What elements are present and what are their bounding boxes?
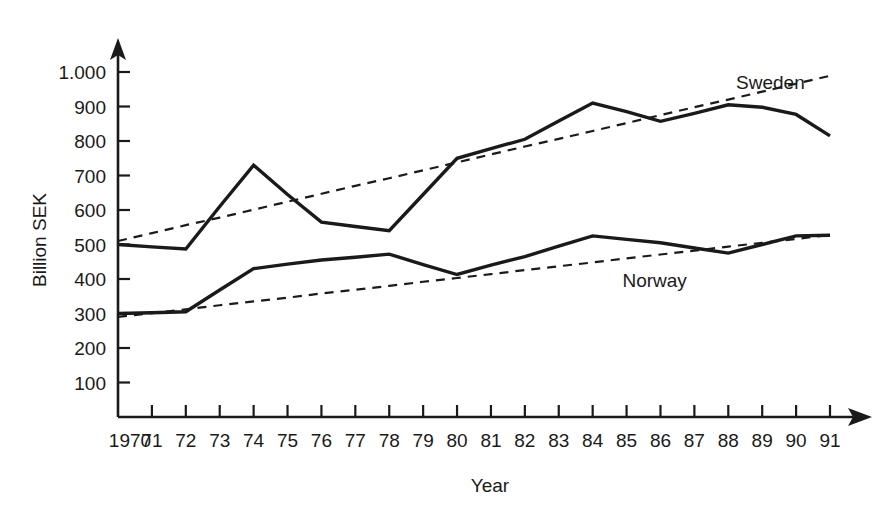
- x-axis-tick-label: 90: [786, 430, 807, 451]
- x-axis-tick-label: 85: [616, 430, 637, 451]
- y-axis-tick-label: 500: [74, 235, 106, 256]
- x-axis-tick-label: 86: [650, 430, 671, 451]
- trend-line-sweden: [118, 76, 830, 241]
- x-axis-tick-label: 73: [209, 430, 230, 451]
- y-axis-tick-label: 1.000: [58, 62, 106, 83]
- x-axis-tick-label: 72: [175, 430, 196, 451]
- x-axis-tick-label: 81: [480, 430, 501, 451]
- x-axis-tick-label: 91: [819, 430, 840, 451]
- data-line-sweden: [118, 103, 830, 249]
- y-axis-tick-label: 800: [74, 131, 106, 152]
- trend-line-norway: [118, 235, 830, 317]
- y-axis-tick-label: 900: [74, 97, 106, 118]
- x-axis-tick-label: 78: [379, 430, 400, 451]
- y-axis-tick-label: 600: [74, 200, 106, 221]
- y-axis-title: Billion SEK: [29, 193, 50, 287]
- x-axis-tick-label: 79: [413, 430, 434, 451]
- x-axis-tick-label: 77: [345, 430, 366, 451]
- x-axis-tick-label: 87: [684, 430, 705, 451]
- x-axis-ticks: [152, 405, 830, 417]
- x-axis-title: Year: [471, 475, 510, 496]
- y-axis-tick-label: 200: [74, 338, 106, 359]
- y-axis-tick-label: 700: [74, 166, 106, 187]
- x-axis-tick-label: 75: [277, 430, 298, 451]
- x-axis-tick-label: 71: [141, 430, 162, 451]
- chart-page: 1002003004005006007008009001.000 1970717…: [0, 0, 896, 523]
- y-axis-tick-label: 300: [74, 304, 106, 325]
- y-axis-tick-labels: 1002003004005006007008009001.000: [58, 62, 106, 394]
- x-axis-tick-label: 74: [243, 430, 265, 451]
- line-chart: 1002003004005006007008009001.000 1970717…: [0, 0, 896, 523]
- x-axis-tick-labels: 1970717273747576777879808182838485868788…: [109, 430, 841, 451]
- x-axis-tick-label: 82: [514, 430, 535, 451]
- x-axis-tick-label: 84: [582, 430, 604, 451]
- series-label-norway: Norway: [622, 270, 687, 291]
- x-axis-tick-label: 80: [446, 430, 467, 451]
- axes-group: [110, 38, 872, 426]
- x-axis-tick-label: 88: [718, 430, 739, 451]
- x-axis-tick-label: 83: [548, 430, 569, 451]
- x-axis-tick-label: 76: [311, 430, 332, 451]
- series-label-sweden: Sweden: [736, 72, 805, 93]
- y-axis-tick-label: 100: [74, 373, 106, 394]
- x-axis-tick-label: 89: [752, 430, 773, 451]
- y-axis-ticks: [118, 72, 130, 383]
- y-axis-tick-label: 400: [74, 269, 106, 290]
